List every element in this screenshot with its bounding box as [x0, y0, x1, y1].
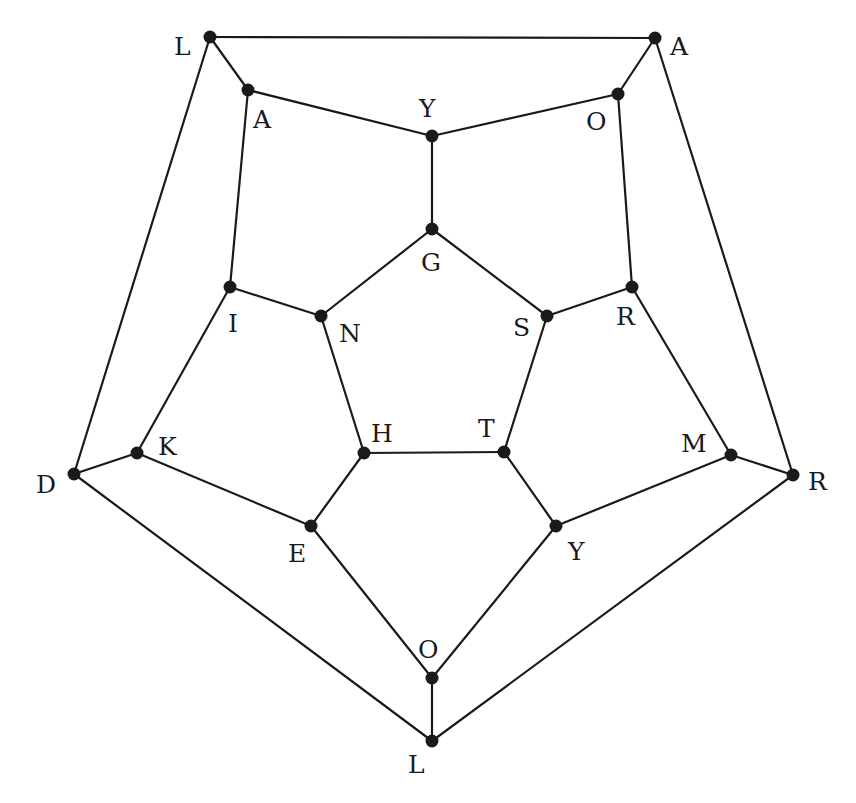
vertex-t	[498, 446, 511, 459]
edge-n-g	[321, 229, 432, 316]
vertex-label-d: D	[36, 470, 56, 499]
vertex-label-e: E	[288, 539, 306, 568]
edge-t-h	[364, 452, 504, 453]
vertex-label-n: N	[339, 319, 361, 348]
vertex-l	[204, 31, 217, 44]
dodecahedron-graph: LARLDAYORMYOEKIGSTHN	[0, 0, 856, 803]
edge-r-m	[731, 455, 793, 475]
edge-y-t	[504, 452, 556, 526]
vertex-label-h: H	[371, 419, 393, 448]
vertex-o	[426, 672, 439, 685]
vertex-y	[426, 130, 439, 143]
edge-d-l	[74, 37, 210, 474]
edge-a-r	[655, 38, 793, 475]
vertex-a	[649, 32, 662, 45]
vertex-o	[612, 88, 625, 101]
vertex-label-s: S	[513, 313, 530, 342]
edge-e-h	[311, 453, 364, 526]
edge-l-d	[74, 474, 432, 741]
vertex-label-k: K	[158, 432, 178, 461]
vertex-k	[131, 447, 144, 460]
edge-r-l	[432, 475, 793, 741]
vertex-g	[426, 223, 439, 236]
vertex-r	[787, 469, 800, 482]
edge-o-r	[618, 94, 632, 287]
edge-k-i	[137, 287, 230, 453]
vertex-label-m: M	[681, 429, 707, 458]
edge-e-k	[137, 453, 311, 526]
vertex-label-y: Y	[567, 537, 585, 566]
edge-i-a	[230, 90, 248, 287]
edge-y-o	[432, 526, 556, 678]
vertex-s	[541, 310, 554, 323]
edge-a-y	[248, 90, 432, 136]
vertex-label-o: O	[586, 107, 607, 136]
vertex-label-y: Y	[418, 94, 436, 123]
edge-d-k	[74, 453, 137, 474]
vertex-r	[626, 281, 639, 294]
vertex-m	[725, 449, 738, 462]
edge-l-a	[210, 37, 655, 38]
vertex-e	[305, 520, 318, 533]
edge-g-s	[432, 229, 547, 316]
vertex-h	[358, 447, 371, 460]
vertex-label-r: R	[616, 302, 636, 331]
edge-m-y	[556, 455, 731, 526]
vertex-y	[550, 520, 563, 533]
vertex-d	[68, 468, 81, 481]
edge-l-a	[210, 37, 248, 90]
vertex-label-o: O	[418, 635, 439, 664]
edge-a-o	[618, 38, 655, 94]
vertex-label-g: G	[421, 248, 441, 277]
vertex-label-a: A	[669, 32, 689, 61]
vertex-label-t: T	[478, 414, 495, 443]
vertex-a	[242, 84, 255, 97]
vertex-label-i: I	[228, 309, 238, 338]
vertex-label-l: L	[408, 750, 425, 779]
vertex-label-l: L	[174, 32, 191, 61]
vertex-label-r: R	[808, 467, 828, 496]
vertex-label-a: A	[252, 105, 272, 134]
vertex-i	[224, 281, 237, 294]
vertex-l	[426, 735, 439, 748]
vertex-n	[315, 310, 328, 323]
edge-o-e	[311, 526, 432, 678]
edge-i-n	[230, 287, 321, 316]
